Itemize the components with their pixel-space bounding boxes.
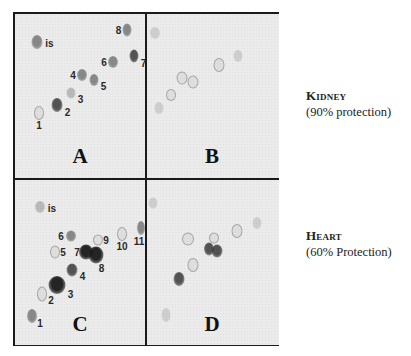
panel-label-c: C (72, 312, 87, 337)
spot-4 (187, 76, 198, 89)
spot-label-2: 2 (48, 295, 54, 306)
spot-1 (161, 308, 170, 322)
spot-5 (209, 232, 219, 243)
spot-label-1: 1 (37, 317, 43, 328)
spot-7 (130, 50, 139, 63)
spot-label-9: 9 (103, 234, 109, 245)
caption-heart-title: Heart (306, 228, 392, 244)
spot-3 (67, 88, 76, 99)
spot-3 (176, 72, 187, 85)
spot-label-2: 2 (65, 107, 71, 118)
spot-label-6: 6 (101, 57, 107, 68)
spot-label-3: 3 (68, 288, 74, 299)
spot-6 (187, 258, 198, 272)
spot-label-4: 4 (80, 271, 86, 282)
panel-label-a: A (72, 144, 87, 169)
spot-label-10: 10 (116, 240, 127, 251)
spot-4 (67, 263, 78, 276)
spot-label-11: 11 (134, 235, 145, 246)
spot-5 (50, 245, 60, 258)
caption-kidney-subtitle: (90% protection) (306, 105, 391, 120)
spot-label-1: 1 (36, 120, 42, 131)
horizontal-divider (15, 178, 277, 180)
spot-1 (154, 102, 163, 114)
spot-6 (233, 50, 242, 62)
spot-label-5: 5 (60, 246, 66, 257)
spot-2 (166, 89, 176, 101)
spot-label-8: 8 (99, 263, 105, 274)
spot-9 (93, 234, 103, 245)
spot-2 (52, 98, 63, 112)
spot-7 (173, 272, 184, 286)
spot-5 (213, 58, 224, 72)
spot-5 (90, 74, 99, 86)
spot-10 (117, 227, 127, 241)
spot-label-is: is (48, 202, 56, 213)
spot-label-6: 6 (58, 230, 64, 241)
spot-6 (108, 56, 118, 68)
spot-2 (37, 286, 47, 301)
spot-6 (66, 230, 76, 241)
spot-label-8: 8 (116, 25, 122, 36)
spot-label-3: 3 (78, 93, 84, 104)
spot-label-7: 7 (74, 246, 80, 257)
spot-4 (211, 244, 222, 257)
spot-1 (27, 309, 37, 323)
spot-label-is: is (45, 38, 53, 49)
caption-heart-subtitle: (60% Protection) (306, 245, 392, 260)
spot-is (32, 35, 43, 49)
spot-0 (150, 27, 160, 39)
spot-8 (123, 24, 132, 37)
spot-1 (34, 106, 44, 120)
figure-frame: is12345678 is1234567891011 A B C D (13, 12, 279, 346)
panel-label-b: B (205, 144, 219, 169)
spot-11 (137, 221, 145, 235)
spot-label-4: 4 (70, 70, 76, 81)
spot-is (35, 201, 45, 213)
spot-3 (49, 276, 66, 294)
caption-kidney-title: Kidney (306, 88, 391, 104)
caption-kidney: Kidney (90% protection) (306, 88, 391, 120)
spot-9 (252, 217, 261, 229)
spot-label-5: 5 (101, 81, 107, 92)
spot-8 (231, 224, 242, 238)
spot-2 (182, 232, 194, 245)
spot-0 (148, 197, 157, 208)
spot-4 (77, 69, 87, 81)
panel-label-d: D (204, 312, 219, 337)
spot-8 (89, 246, 104, 263)
caption-heart: Heart (60% Protection) (306, 228, 392, 260)
